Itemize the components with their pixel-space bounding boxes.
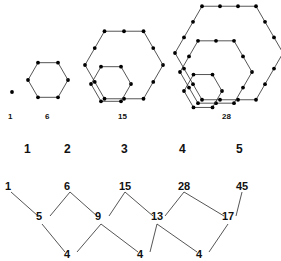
figure-canvas	[0, 0, 281, 261]
figure-label-3: 15	[118, 112, 127, 121]
diff-row1-value-5: 45	[236, 180, 248, 192]
index-label-3: 3	[121, 142, 128, 156]
figure-label-1: 1	[8, 112, 12, 121]
diff-row2-value-3: 13	[151, 210, 163, 222]
index-label-2: 2	[64, 142, 71, 156]
diff-row3-value-1: 4	[64, 248, 70, 260]
figure-label-2: 6	[45, 112, 49, 121]
index-label-1: 1	[24, 142, 31, 156]
figure-label-4: 28	[222, 112, 231, 121]
diff-row2-value-1: 5	[36, 210, 42, 222]
diff-row1-value-1: 1	[5, 180, 11, 192]
hex-number-illustration: 1 6 15 28 1 2 3 4 5 1 6 15 28 45 5 9 13 …	[0, 0, 281, 261]
index-label-4: 4	[179, 142, 186, 156]
index-label-5: 5	[236, 142, 243, 156]
diff-row3-value-2: 4	[137, 248, 143, 260]
diff-row2-value-2: 9	[95, 210, 101, 222]
diff-row1-value-2: 6	[64, 180, 70, 192]
diff-row3-value-3: 4	[196, 248, 202, 260]
diff-row1-value-4: 28	[178, 180, 190, 192]
diff-row1-value-3: 15	[119, 180, 131, 192]
diff-row2-value-4: 17	[222, 210, 234, 222]
